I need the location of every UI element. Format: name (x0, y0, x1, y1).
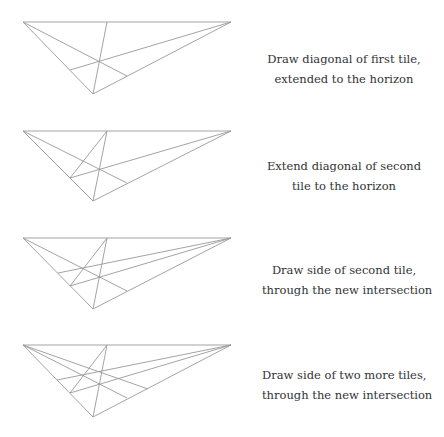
step-4-drawing (0, 345, 260, 425)
first-diagonal-line (23, 131, 127, 183)
step-2-caption: Extend diagonal of second tile to the ho… (262, 156, 426, 196)
second-diagonal-line (70, 345, 107, 393)
step-3-drawing (0, 238, 260, 318)
step-panel-3: Draw side of second tile, through the ne… (0, 238, 444, 338)
first-side-line (70, 238, 231, 286)
step-panel-1: Draw diagonal of first tile, extended to… (0, 22, 444, 122)
vertical-line (93, 238, 107, 309)
caption-line-1: Draw side of second tile, (262, 260, 426, 280)
step-3-caption: Draw side of second tile, through the ne… (262, 260, 426, 300)
first-diagonal-line (23, 238, 127, 291)
first-side-line (70, 345, 231, 393)
vertical-line (93, 131, 107, 201)
vertical-line (93, 345, 107, 417)
left-edge-line (23, 131, 93, 201)
first-side-line (70, 131, 231, 178)
second-diagonal-line (70, 238, 107, 286)
step-1-drawing (0, 22, 260, 102)
left-edge-line (23, 22, 93, 94)
caption-line-2: through the new intersection (262, 385, 426, 405)
caption-line-1: Draw diagonal of first tile, (262, 49, 426, 69)
step-4-caption: Draw side of two more tiles, through the… (262, 365, 426, 405)
step-panel-4: Draw side of two more tiles, through the… (0, 345, 444, 437)
second-side-line (57, 345, 231, 380)
right-edge-line (93, 22, 231, 94)
first-diagonal-line (23, 345, 127, 398)
right-edge-line (93, 238, 231, 309)
right-edge-line (93, 131, 231, 201)
step-1-caption: Draw diagonal of first tile, extended to… (262, 49, 426, 89)
step-panel-2: Extend diagonal of second tile to the ho… (0, 131, 444, 231)
step-2-drawing (0, 131, 260, 211)
vertical-line (93, 22, 107, 94)
first-diagonal-line (23, 22, 127, 76)
caption-line-2: tile to the horizon (262, 176, 426, 196)
caption-line-2: extended to the horizon (262, 69, 426, 89)
second-side-line (58, 238, 231, 273)
left-edge-line (23, 238, 93, 309)
first-side-line (70, 22, 231, 70)
third-diagonal-line (23, 345, 148, 389)
caption-line-1: Extend diagonal of second (262, 156, 426, 176)
left-edge-line (23, 345, 93, 417)
right-edge-line (93, 345, 231, 417)
caption-line-1: Draw side of two more tiles, (262, 365, 426, 385)
second-diagonal-line (70, 131, 107, 178)
caption-line-2: through the new intersection (262, 280, 426, 300)
